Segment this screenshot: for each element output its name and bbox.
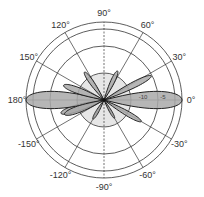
angle-label: -120°	[50, 170, 72, 180]
center-point	[102, 98, 106, 102]
angle-label: 30°	[172, 52, 186, 62]
angle-label: -150°	[18, 139, 40, 149]
angle-label: -60°	[139, 170, 156, 180]
origin-dot	[102, 98, 106, 102]
polar-plot: 0°30°60°90°120°150°180°-150°-120°-90°-60…	[0, 0, 204, 197]
angle-label: 90°	[97, 8, 111, 18]
angle-label: 150°	[19, 52, 38, 62]
angle-label: -90°	[96, 182, 113, 192]
angle-label: 180°	[8, 95, 27, 105]
angle-label: 60°	[141, 20, 155, 30]
angle-label: -30°	[171, 139, 188, 149]
radial-tick-label: -5	[160, 94, 166, 100]
angle-label: 0°	[187, 95, 196, 105]
angle-label: 120°	[51, 20, 70, 30]
radial-tick-label: -10	[139, 94, 148, 100]
